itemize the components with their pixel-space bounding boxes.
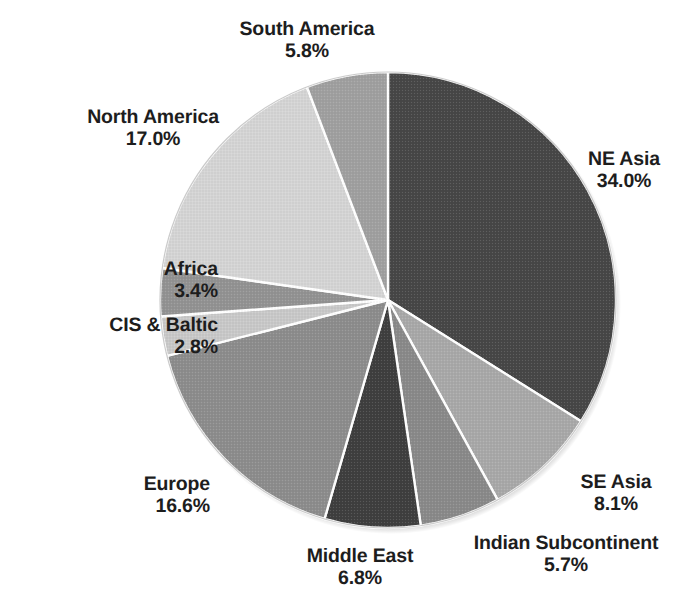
pie-chart-graphic: NE Asia 34.0%SE Asia 8.1%Indian Subconti… bbox=[0, 0, 697, 611]
slice-label-europe: Europe 16.6% bbox=[24, 473, 210, 517]
slice-label-name: CIS & Baltic bbox=[10, 314, 218, 336]
slice-label-africa: Africa 3.4% bbox=[28, 258, 218, 302]
slice-label-value: 16.6% bbox=[24, 495, 210, 517]
slice-label-ne-asia: NE Asia 34.0% bbox=[556, 148, 692, 192]
slice-label-name: SE Asia bbox=[548, 471, 684, 493]
slice-label-indian-subcontinent: Indian Subcontinent 5.7% bbox=[440, 532, 692, 576]
slice-label-name: South America bbox=[196, 18, 418, 40]
slice-label-value: 5.8% bbox=[196, 40, 418, 62]
slice-label-south-america: South America 5.8% bbox=[196, 18, 418, 62]
slice-label-name: Middle East bbox=[258, 545, 462, 567]
slice-label-name: North America bbox=[42, 106, 264, 128]
pie-chart-figure: NE Asia 34.0%SE Asia 8.1%Indian Subconti… bbox=[0, 0, 697, 611]
slice-label-name: Africa bbox=[28, 258, 218, 280]
slice-label-north-america: North America 17.0% bbox=[42, 106, 264, 150]
slice-label-name: NE Asia bbox=[556, 148, 692, 170]
slice-label-value: 5.7% bbox=[440, 554, 692, 576]
slice-label-value: 2.8% bbox=[10, 336, 218, 358]
slice-label-value: 8.1% bbox=[548, 493, 684, 515]
slice-label-value: 34.0% bbox=[556, 170, 692, 192]
slice-label-name: Europe bbox=[24, 473, 210, 495]
slice-label-name: Indian Subcontinent bbox=[440, 532, 692, 554]
slice-label-value: 6.8% bbox=[258, 567, 462, 589]
slice-label-middle-east: Middle East 6.8% bbox=[258, 545, 462, 589]
slice-label-cis-baltic: CIS & Baltic 2.8% bbox=[10, 314, 218, 358]
slice-label-value: 3.4% bbox=[28, 280, 218, 302]
slice-label-se-asia: SE Asia 8.1% bbox=[548, 471, 684, 515]
slice-label-value: 17.0% bbox=[42, 128, 264, 150]
